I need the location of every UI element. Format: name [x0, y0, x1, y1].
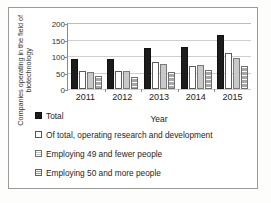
bar-2013-series3: [168, 72, 175, 89]
legend-label-2: Employing 49 and fewer people: [46, 149, 162, 159]
bar-group-2015: [215, 23, 250, 89]
legend-label-0: Total: [46, 111, 64, 121]
x-tick-label-2012: 2012: [104, 92, 140, 102]
legend-item-3[interactable]: Employing 50 and more people: [35, 163, 257, 182]
bar-2014-series3: [205, 70, 212, 89]
x-tick-label-2013: 2013: [141, 92, 177, 102]
bar-2013-series0: [144, 48, 151, 89]
bar-2011-series1: [79, 71, 86, 89]
legend-label-3: Employing 50 and more people: [46, 168, 161, 178]
bar-2015-series3: [241, 66, 248, 89]
y-tick-label-200: 200: [52, 20, 65, 29]
x-axis-tick-labels: 20112012201320142015: [67, 92, 251, 102]
legend-item-2[interactable]: Employing 49 and fewer people: [35, 144, 257, 163]
bar-2013-series2: [160, 64, 167, 89]
chart-frame: Companies operating in the field of biot…: [8, 7, 258, 189]
legend-swatch-icon-2: [35, 150, 42, 157]
bar-2012-series2: [123, 71, 130, 89]
x-tick-label-2014: 2014: [178, 92, 214, 102]
y-tick-label-150: 150: [52, 36, 65, 45]
bar-group-2011: [69, 23, 104, 89]
y-tick-mark-0: [65, 90, 68, 91]
bar-2014-series2: [197, 65, 204, 89]
y-tick-label-50: 50: [56, 69, 65, 78]
legend-label-1: Of total, operating research and develop…: [46, 130, 213, 140]
bar-2012-series0: [107, 59, 114, 89]
legend-swatch-icon-0: [35, 112, 42, 119]
bar-group-2013: [142, 23, 177, 89]
bar-2015-series0: [217, 35, 224, 89]
bar-2011-series3: [95, 76, 102, 89]
legend-swatch-icon-3: [35, 169, 42, 176]
bar-2015-series2: [233, 58, 240, 89]
legend-item-1[interactable]: Of total, operating research and develop…: [35, 125, 257, 144]
legend-swatch-icon-1: [35, 131, 42, 138]
legend-item-0[interactable]: Total: [35, 106, 257, 125]
bar-2011-series2: [87, 72, 94, 89]
gridline-0: 0: [68, 89, 251, 90]
chart-legend: TotalOf total, operating research and de…: [35, 106, 257, 182]
bar-group-2012: [105, 23, 140, 89]
bar-2013-series1: [152, 62, 159, 89]
bar-2014-series1: [189, 66, 196, 89]
bar-group-2014: [179, 23, 214, 89]
y-axis-title: Companies operating in the field of biot…: [17, 10, 34, 130]
bar-2012-series3: [131, 77, 138, 89]
y-tick-label-100: 100: [52, 53, 65, 62]
plot-area: 200150100500: [67, 23, 251, 90]
bar-2011-series0: [71, 59, 78, 89]
bar-2012-series1: [115, 71, 122, 89]
x-tick-label-2015: 2015: [215, 92, 251, 102]
bar-chart-figure: Companies operating in the field of biot…: [0, 0, 271, 203]
bar-2015-series1: [225, 53, 232, 89]
x-tick-label-2011: 2011: [67, 92, 103, 102]
bar-2014-series0: [181, 47, 188, 89]
bar-groups: [68, 23, 251, 89]
